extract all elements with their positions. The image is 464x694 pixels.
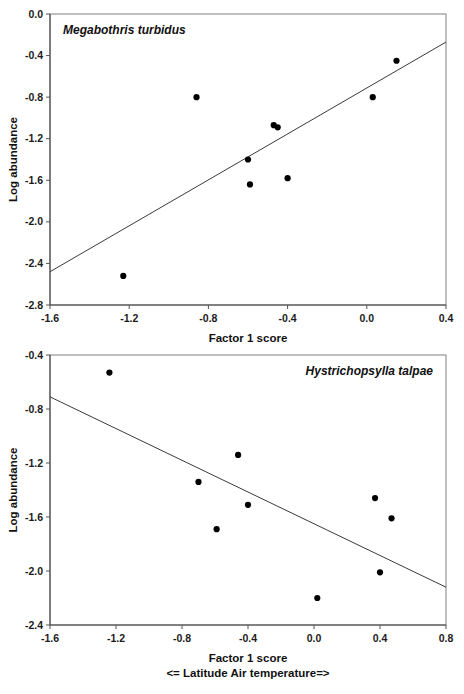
panel-hystrichopsylla-talpae: -0.4-0.8-1.2-1.6-2.0-2.4-1.6-1.2-0.8-0.4… <box>0 347 464 694</box>
data-point <box>235 452 241 458</box>
x-tick-label: 0.4 <box>439 312 454 324</box>
x-tick-label: 0.4 <box>373 632 388 644</box>
y-tick-label: -2.0 <box>25 215 43 227</box>
y-tick-label: -2.4 <box>25 257 43 269</box>
data-point <box>372 495 378 501</box>
data-point <box>314 595 320 601</box>
y-tick-label: -1.2 <box>25 132 43 144</box>
x-tick-label: -1.6 <box>41 312 59 324</box>
x-tick-label: -0.4 <box>239 632 257 644</box>
data-point <box>377 569 383 575</box>
data-point <box>393 58 399 64</box>
y-tick-label: -0.4 <box>25 349 43 361</box>
y-axis-title: Log abundance <box>7 117 19 202</box>
y-tick-label: -1.2 <box>25 457 43 469</box>
x-tick-label: -0.4 <box>279 312 297 324</box>
data-point <box>245 502 251 508</box>
x-tick-label: 0.0 <box>307 632 322 644</box>
x-tick-label: 0.0 <box>359 312 374 324</box>
data-point <box>195 479 201 485</box>
y-tick-label: -0.8 <box>25 91 43 103</box>
x-axis-title: Factor 1 score <box>209 332 288 344</box>
data-point <box>245 156 251 162</box>
y-tick-label: -1.6 <box>25 511 43 523</box>
panel-megabothris-turbidus: 0.0-0.4-0.8-1.2-1.6-2.0-2.4-2.8-1.6-1.2-… <box>0 0 464 347</box>
y-tick-label: -0.4 <box>25 49 43 61</box>
x-tick-label: -1.6 <box>41 632 59 644</box>
data-point <box>285 175 291 181</box>
y-tick-label: -0.8 <box>25 403 43 415</box>
y-tick-label: 0.0 <box>28 8 43 20</box>
data-point <box>370 94 376 100</box>
y-tick-label: -2.0 <box>25 565 43 577</box>
x-axis-subtitle: <= Latitude Air temperature=> <box>166 667 329 679</box>
regression-line <box>50 397 446 587</box>
data-point <box>275 124 281 130</box>
chart-canvas-bottom: -0.4-0.8-1.2-1.6-2.0-2.4-1.6-1.2-0.8-0.4… <box>0 347 464 694</box>
data-point <box>106 369 112 375</box>
data-point <box>193 94 199 100</box>
two-panel-scatter-figure: 0.0-0.4-0.8-1.2-1.6-2.0-2.4-2.8-1.6-1.2-… <box>0 0 464 694</box>
plot-frame <box>50 355 446 625</box>
data-point <box>120 273 126 279</box>
x-tick-label: -0.8 <box>199 312 217 324</box>
x-tick-label: 0.8 <box>439 632 454 644</box>
species-title: Hystrichopsylla talpae <box>306 364 434 378</box>
data-point <box>388 515 394 521</box>
y-tick-label: -2.4 <box>25 619 43 631</box>
x-axis-title: Factor 1 score <box>209 652 288 664</box>
x-tick-label: -1.2 <box>107 632 125 644</box>
y-tick-label: -1.6 <box>25 174 43 186</box>
data-point <box>214 526 220 532</box>
chart-canvas-top: 0.0-0.4-0.8-1.2-1.6-2.0-2.4-2.8-1.6-1.2-… <box>0 0 464 347</box>
y-axis-title: Log abundance <box>7 448 19 533</box>
data-point <box>247 181 253 187</box>
y-tick-label: -2.8 <box>25 299 43 311</box>
species-title: Megabothris turbidus <box>63 23 186 37</box>
x-tick-label: -0.8 <box>173 632 191 644</box>
x-tick-label: -1.2 <box>120 312 138 324</box>
